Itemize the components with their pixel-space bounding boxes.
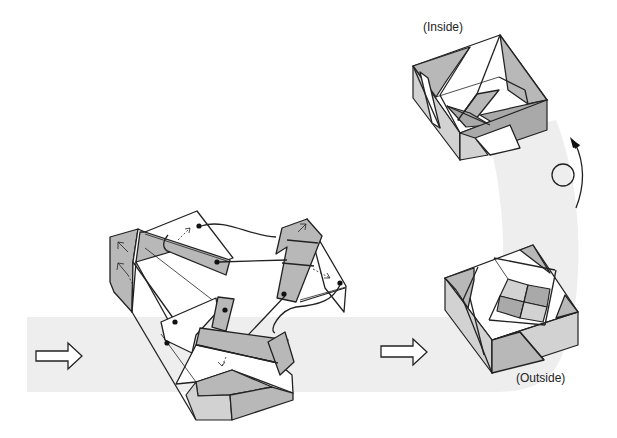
outside-label: (Outside) <box>516 371 565 385</box>
origami-diagram: (Inside) (Outside) <box>0 0 617 438</box>
inside-label: (Inside) <box>423 20 463 34</box>
